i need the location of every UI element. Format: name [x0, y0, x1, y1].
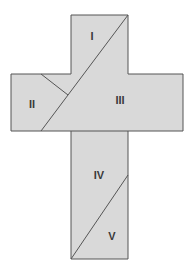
piece-label-v: V	[108, 230, 116, 242]
piece-label-i: I	[90, 30, 93, 42]
piece-label-ii: II	[29, 98, 35, 110]
piece-label-iii: III	[115, 94, 124, 106]
cross-outline	[11, 15, 183, 259]
cross-diagram: I II III IV V	[0, 0, 196, 273]
piece-label-iv: IV	[94, 169, 105, 181]
